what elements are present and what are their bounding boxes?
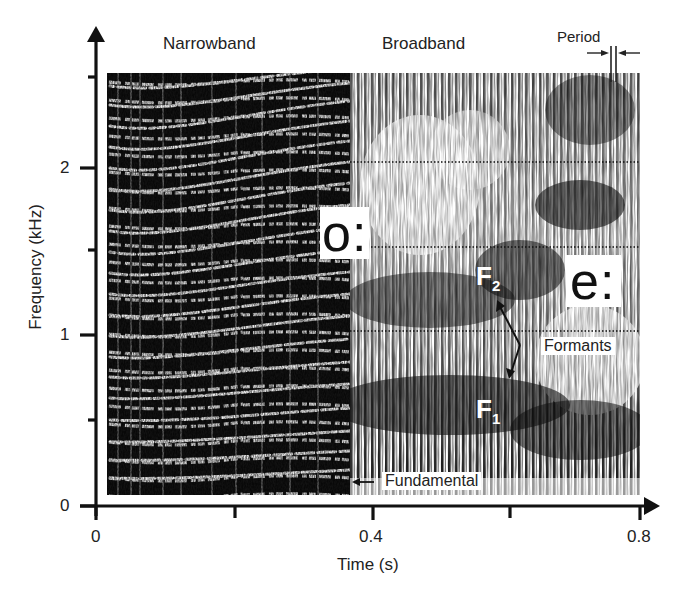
vowel-e-label: e: xyxy=(566,255,621,307)
vowel-o-label: o: xyxy=(320,207,369,259)
y-axis-title: Frequency (kHz) xyxy=(26,202,46,332)
y-axis xyxy=(80,26,105,516)
x-axis xyxy=(80,497,660,520)
narrowband-title: Narrowband xyxy=(163,34,256,54)
period-label: Period xyxy=(557,28,600,45)
xtick-0-8: 0.8 xyxy=(627,527,651,547)
broadband-title: Broadband xyxy=(382,34,465,54)
formants-label: Formants xyxy=(541,337,615,355)
fundamental-label: Fundamental xyxy=(382,472,481,490)
ytick-2: 2 xyxy=(60,158,69,178)
formant-f1-label: F1 xyxy=(476,396,500,426)
x-axis-title: Time (s) xyxy=(337,555,399,575)
narrowband-spectrogram xyxy=(107,68,350,495)
formant-f2-label: F2 xyxy=(476,263,500,293)
xtick-0: 0 xyxy=(91,527,100,547)
ytick-0: 0 xyxy=(60,496,69,516)
ytick-1: 1 xyxy=(60,325,69,345)
xtick-0-4: 0.4 xyxy=(359,527,383,547)
